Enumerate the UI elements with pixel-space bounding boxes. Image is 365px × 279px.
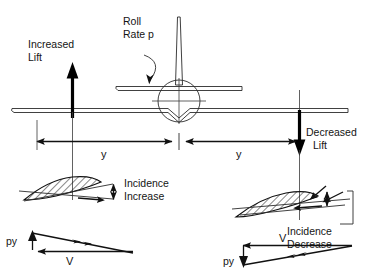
roll-rate-label-line1: Roll bbox=[123, 15, 141, 27]
roll-rate-label-line2: Rate p bbox=[123, 28, 154, 40]
left-triangle-v-label: V bbox=[66, 255, 74, 267]
incidence-decrease-label-line1: Incidence bbox=[287, 225, 332, 237]
right-triangle-v-label: V bbox=[279, 232, 287, 244]
roll-damping-diagram: Increased Lift Roll Rate p Decreased Lif… bbox=[0, 0, 365, 279]
span-label-left: y bbox=[101, 148, 107, 160]
left-triangle-py-label: py bbox=[6, 235, 18, 247]
incidence-decrease-label-line2: Decrease bbox=[287, 238, 332, 250]
right-triangle-py-label: py bbox=[223, 255, 235, 267]
diagram-canvas: Increased Lift Roll Rate p Decreased Lif… bbox=[0, 0, 365, 279]
decreased-lift-label-line1: Decreased bbox=[306, 126, 357, 138]
span-label-right: y bbox=[236, 148, 242, 160]
incidence-increase-label-line1: Incidence bbox=[124, 177, 169, 189]
incidence-increase-label-line2: Increase bbox=[124, 190, 164, 202]
decreased-lift-label-line2: Lift bbox=[313, 139, 327, 151]
increased-lift-label-line1: Increased bbox=[28, 38, 74, 50]
increased-lift-label-line2: Lift bbox=[28, 51, 42, 63]
